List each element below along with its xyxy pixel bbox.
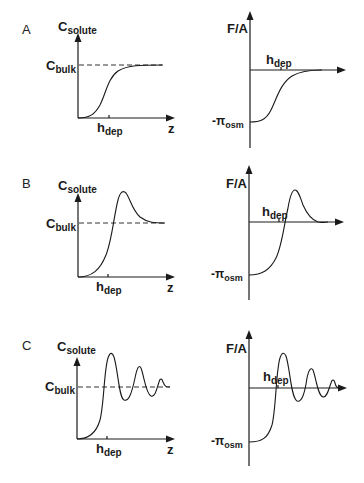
panel-c: C Csolute Cbulk hdep z F/A hdep -πosm [22,330,347,466]
svg-text:hdep: hdep [262,204,288,221]
y-axis-label: F/A [226,176,248,191]
panel-label-c: C [22,338,31,353]
panel-a: A Csolute Cbulk hdep z F/A hdep -πosm [22,11,346,148]
concentration-curve [78,65,163,118]
x-axis-label: z [167,280,174,295]
svg-text:hdep: hdep [96,279,122,296]
x-axis-label: z [167,442,174,457]
x-axis-arrow-icon [337,67,346,74]
svg-text:-πosm: -πosm [211,434,243,450]
panel-b: B Csolute Cbulk hdep z F/A hdep -πosm [22,165,344,300]
svg-text:hdep: hdep [266,52,292,69]
y-axis-arrow-icon [247,11,254,20]
x-axis-arrow-icon [335,219,344,226]
svg-text:-πosm: -πosm [212,114,244,130]
svg-text:hdep: hdep [97,120,123,137]
h-dep-label: h [262,204,270,219]
svg-text:-πosm: -πosm [211,267,243,283]
svg-text:Cbulk: Cbulk [46,216,76,233]
svg-text:hdep: hdep [96,441,122,458]
neg-pi-osm-label: -π [212,114,225,128]
panel-label-b: B [22,176,31,191]
panel-a-force-plot: F/A hdep -πosm [212,11,346,148]
svg-text:Csolute: Csolute [58,19,97,36]
y-axis-arrow-icon [74,357,81,366]
h-dep-label: h [97,120,105,135]
concentration-curve [77,353,170,439]
neg-pi-osm-label: -π [211,434,224,448]
panel-a-concentration-plot: Csolute Cbulk hdep z [46,19,175,137]
panel-b-force-plot: F/A hdep -πosm [211,165,344,300]
h-dep-label: h [96,279,104,294]
svg-text:Cbulk: Cbulk [45,379,75,396]
h-dep-label: h [96,441,104,456]
panel-c-concentration-plot: Csolute Cbulk hdep z [45,339,175,458]
h-dep-label: h [263,369,271,384]
panel-label-a: A [22,22,31,37]
svg-text:hdep: hdep [263,369,289,386]
y-axis-arrow-icon [246,330,253,339]
depletion-figure: A Csolute Cbulk hdep z F/A hdep -πosm [0,0,364,483]
concentration-curve [78,192,165,277]
x-axis-label: z [168,121,175,136]
svg-text:Csolute: Csolute [58,178,97,195]
force-curve [250,70,322,122]
neg-pi-osm-label: -π [211,267,224,281]
y-axis-label: F/A [226,341,248,356]
y-axis-arrow-icon [246,165,253,174]
h-dep-label: h [266,52,274,67]
force-curve [249,190,328,275]
svg-text:Csolute: Csolute [57,339,96,356]
y-axis-label: F/A [227,21,249,36]
panel-b-concentration-plot: Csolute Cbulk hdep z [46,178,175,296]
panel-c-force-plot: F/A hdep -πosm [211,330,347,466]
force-curve [249,353,340,442]
svg-text:Cbulk: Cbulk [46,58,76,75]
